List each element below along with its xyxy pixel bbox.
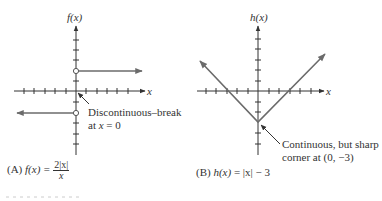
caption-function: h(x) [213, 166, 231, 178]
panel-a-xlabel: x [147, 85, 152, 97]
caption-label: (A) [7, 163, 25, 175]
panel-b-caption: (B) h(x) = |x| − 3 [196, 166, 270, 178]
panel-a-ylabel: f(x) [67, 11, 82, 23]
panel-b-axes [197, 26, 324, 155]
panel-a-axes [14, 26, 145, 155]
note-text: = 0 [104, 119, 121, 131]
panel-b-ylabel: h(x) [250, 11, 268, 23]
panel-b-annotation-line1: Continuous, but sharp [282, 138, 379, 150]
fraction-denominator: x [53, 171, 69, 181]
note-text: at [88, 119, 99, 131]
panel-b-annotation-line2: corner at (0, −3) [282, 151, 354, 163]
caption-label: (B) [196, 166, 213, 178]
panel-a-caption: (A) f(x) = 2|x|x [7, 160, 69, 181]
caption-function: f(x) = [25, 163, 53, 175]
caption-fraction: 2|x|x [53, 160, 69, 181]
panel-a-annotation-line1: Discontinuous–break [88, 106, 181, 118]
panel-a-annotation-line2: at x = 0 [88, 119, 121, 131]
panel-b-xlabel: x [326, 85, 331, 97]
caption-expression: = |x| − 3 [231, 166, 270, 178]
panel-b-series [200, 54, 325, 144]
